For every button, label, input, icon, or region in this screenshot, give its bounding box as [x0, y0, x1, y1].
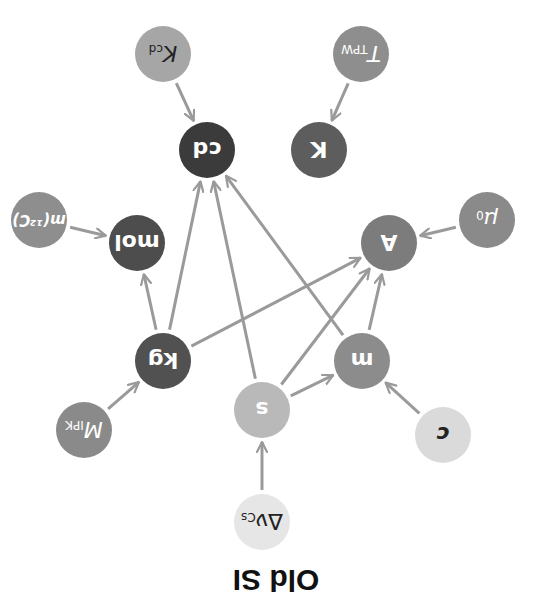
node-T_pw: TTPW	[333, 26, 389, 82]
dependency-graph: KcdcdTTPWKm(¹²C)molμ0AkgMIPKsmcΔνCs Old …	[0, 0, 553, 596]
node-label: A	[380, 231, 397, 256]
node-m: m	[334, 333, 390, 389]
node-K: K	[291, 122, 347, 178]
node-m12C: m(¹²C)	[11, 192, 67, 248]
edge-mu0-to-A	[420, 227, 456, 235]
edge-kg-to-mol	[144, 274, 156, 329]
edge-M_IPK-to-kg	[108, 382, 139, 409]
edge-kg-to-cd	[170, 181, 201, 329]
node-label: kg	[148, 349, 178, 374]
diagram-canvas: KcdcdTTPWKm(¹²C)molμ0AkgMIPKsmcΔνCs Old …	[0, 0, 553, 596]
node-label: m	[351, 349, 374, 374]
diagram-title: Old SI	[233, 564, 320, 596]
node-K_cd: Kcd	[135, 26, 191, 82]
node-dnu_Cs: ΔνCs	[234, 494, 290, 550]
node-label: c	[436, 423, 449, 448]
node-label: m(¹²C)	[12, 211, 66, 229]
edge-kg-to-A	[191, 258, 360, 346]
edge-m-to-A	[369, 274, 382, 330]
node-s: s	[234, 382, 290, 438]
edge-K_cd-to-cd	[176, 83, 193, 121]
edge-s-to-m	[291, 375, 334, 396]
node-c: c	[415, 407, 471, 463]
node-label: cd	[193, 138, 222, 163]
edge-m12C-to-mol	[70, 227, 106, 235]
node-kg: kg	[135, 333, 191, 389]
node-label: s	[255, 398, 268, 423]
edge-m-to-cd	[226, 176, 343, 335]
node-M_IPK: MIPK	[56, 402, 112, 458]
edge-c-to-m	[386, 383, 420, 414]
node-label: K	[310, 138, 328, 163]
node-cd: cd	[179, 122, 235, 178]
edge-s-to-cd	[214, 181, 256, 378]
node-mu0: μ0	[459, 192, 515, 248]
edge-T_pw-to-K	[332, 83, 348, 120]
node-mol: mol	[109, 215, 165, 271]
node-A: A	[361, 215, 417, 271]
node-label: mol	[114, 231, 160, 256]
